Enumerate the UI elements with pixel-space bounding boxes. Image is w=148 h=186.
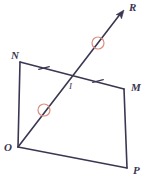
segment-PO	[18, 147, 127, 168]
ray-OR	[18, 13, 121, 147]
vertex-label-P: P	[133, 164, 140, 176]
vertex-label-R: R	[128, 1, 136, 13]
geometry-canvas: N M P O R I	[0, 0, 148, 186]
geometry-figure: N M P O R I	[0, 0, 148, 186]
point-label-I: I	[68, 81, 73, 91]
vertex-label-O: O	[4, 141, 12, 153]
segment-MP	[124, 89, 127, 168]
vertex-label-N: N	[10, 49, 20, 61]
vertex-label-M: M	[130, 81, 142, 93]
segment-ON	[18, 62, 20, 147]
